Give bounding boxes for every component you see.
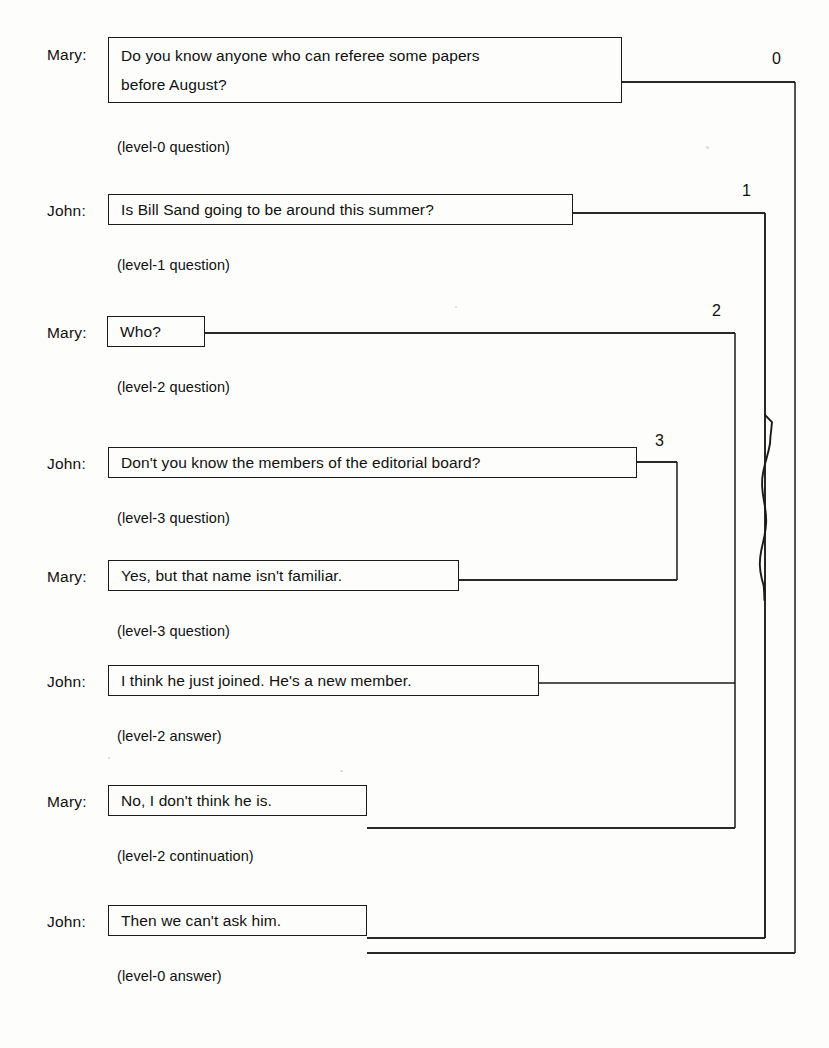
- scan-squiggle-artifact: [760, 415, 772, 600]
- level-annotation: (level-3 question): [117, 510, 230, 526]
- level-annotation: (level-2 question): [117, 379, 230, 395]
- utterance-line: Don't you know the members of the editor…: [109, 455, 636, 471]
- figure-canvas: Mary:Do you know anyone who can referee …: [0, 0, 829, 1048]
- utterance-box: I think he just joined. He's a new membe…: [108, 665, 539, 696]
- utterance-box: Then we can't ask him.: [108, 905, 367, 936]
- utterance-line: Yes, but that name isn't familiar.: [109, 568, 458, 584]
- level-annotation: (level-2 answer): [117, 728, 222, 744]
- utterance-box: Is Bill Sand going to be around this sum…: [108, 194, 573, 225]
- utterance-box: Who?: [107, 316, 205, 347]
- utterance-line: I think he just joined. He's a new membe…: [109, 673, 538, 689]
- paper-speck: [455, 306, 457, 308]
- utterance-box: Don't you know the members of the editor…: [108, 447, 637, 478]
- level-number-1: 1: [742, 182, 751, 200]
- speaker-label: John:: [47, 673, 86, 691]
- level-annotation: (level-0 question): [117, 139, 230, 155]
- speaker-label: John:: [47, 202, 86, 220]
- level-annotation: (level-1 question): [117, 257, 230, 273]
- paper-speck: [108, 757, 110, 759]
- utterance-line: before August?: [109, 77, 621, 93]
- speaker-label: John:: [47, 913, 86, 931]
- speaker-label: John:: [47, 455, 86, 473]
- level-annotation: (level-3 question): [117, 623, 230, 639]
- speaker-label: Mary:: [47, 793, 87, 811]
- utterance-line: No, I don't think he is.: [109, 793, 366, 809]
- paper-speck: [340, 770, 343, 772]
- utterance-line: Is Bill Sand going to be around this sum…: [109, 202, 572, 218]
- utterance-box: Yes, but that name isn't familiar.: [108, 560, 459, 591]
- utterance-line: Then we can't ask him.: [109, 913, 366, 929]
- utterance-box: Do you know anyone who can referee some …: [108, 37, 622, 103]
- level-annotation: (level-2 continuation): [117, 848, 254, 864]
- level-annotation: (level-0 answer): [117, 968, 222, 984]
- utterance-line: Do you know anyone who can referee some …: [109, 48, 621, 64]
- speaker-label: Mary:: [47, 46, 87, 64]
- speaker-label: Mary:: [47, 324, 87, 342]
- speaker-label: Mary:: [47, 568, 87, 586]
- level-number-0: 0: [772, 50, 781, 68]
- utterance-line: Who?: [108, 324, 204, 340]
- level-number-2: 2: [712, 302, 721, 320]
- paper-speck: [706, 146, 709, 149]
- utterance-box: No, I don't think he is.: [108, 785, 367, 816]
- level-number-3: 3: [655, 432, 664, 450]
